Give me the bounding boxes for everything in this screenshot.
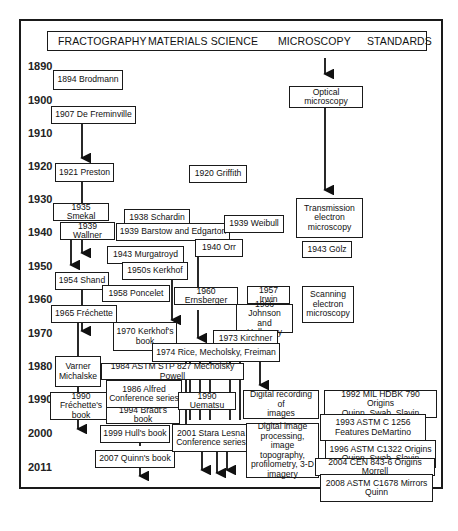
event-1974-rice-mecholsky-freiman: 1974 Rice, Mecholsky, Freiman (152, 343, 280, 362)
event-1994-bradt-book: 1994 Bradt's book (106, 406, 180, 424)
event-scanning-electron-microscopy: Scanning electron microscopy (302, 286, 354, 323)
event-1939-wallner: 1939 Wallner (60, 222, 115, 240)
event-2007-quinn-book: 2007 Quinn's book (95, 450, 175, 468)
event-1920-griffith: 1920 Griffith (189, 165, 247, 183)
event-1921-preston: 1921 Preston (55, 163, 114, 182)
event-1907-de-freminville: 1907 De Freminville (51, 106, 136, 124)
event-1999-hull-book: 1999 Hull's book (100, 425, 170, 443)
event-1990-uematsu: 1990 Uematsu (178, 392, 236, 410)
event-1935-smekal: 1935 Smekal (53, 203, 109, 221)
event-1958-poncelet: 1958 Poncelet (102, 285, 170, 302)
event-1966-johnson-holloway: 1966 Johnson and Holloway (236, 304, 293, 333)
event-1960-ernsberger: 1960 Ernsberger (174, 287, 238, 305)
event-optical-microscopy: Optical microscopy (289, 86, 363, 108)
event-1986-alfred-conference: 1986 Alfred Conference series (106, 380, 182, 408)
event-digital-image-processing: Digital image processing, image topograp… (246, 423, 319, 478)
event-1943-golz: 1943 Gölz (302, 241, 352, 258)
event-1954-shand: 1954 Shand (55, 272, 109, 290)
event-1894-brodmann: 1894 Brodmann (53, 70, 123, 90)
event-2001-stara-lesna-conference: 2001 Stara Lesna Conference series (172, 424, 250, 452)
event-1990-frechette-book: 1990 Fréchette's book (50, 392, 112, 420)
event-1950s-kerkhof: 1950s Kerkhof (122, 262, 188, 280)
event-1984-astm-stp-827: 1984 ASTM STP 827 Mecholsky Powell (101, 363, 244, 380)
event-1940-orr: 1940 Orr (195, 239, 243, 257)
event-transmission-electron-microscopy: Transmission electron microscopy (296, 198, 363, 238)
standard-1993-astm-c1256: 1993 ASTM C 1256 Features DeMartino (320, 414, 426, 441)
standard-2008-astm-c1678: 2008 ASTM C1678 Mirrors Quinn (320, 474, 433, 502)
event-1965-frechette: 1965 Fréchette (51, 305, 117, 323)
event-varner-michalske: Varner Michalske (55, 356, 101, 387)
event-digital-recording-of-images: Digital recording of images (243, 390, 319, 419)
event-1939-weibull: 1939 Weibull (224, 215, 284, 233)
